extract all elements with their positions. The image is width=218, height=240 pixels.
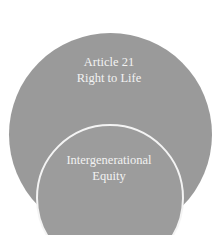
inner-circle-label: Intergenerational Equity xyxy=(0,152,218,184)
inner-label-line1: Intergenerational xyxy=(0,152,218,168)
outer-label-line1: Article 21 xyxy=(0,54,218,70)
outer-circle-label: Article 21 Right to Life xyxy=(0,54,218,86)
outer-label-line2: Right to Life xyxy=(0,70,218,86)
inner-label-line2: Equity xyxy=(0,168,218,184)
